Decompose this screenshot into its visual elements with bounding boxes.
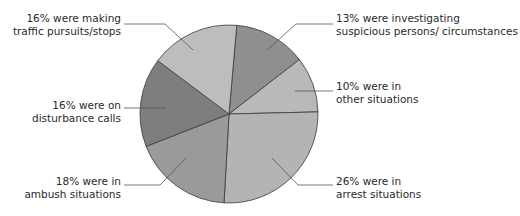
label-arrest-line2: arrest situations bbox=[336, 188, 421, 201]
label-other: 10% were in other situations bbox=[336, 80, 419, 105]
label-investigating-line1: 13% were investigating bbox=[336, 12, 518, 25]
label-investigating-line2: suspicious persons/ circumstances bbox=[336, 25, 518, 38]
label-traffic: 16% were making traffic pursuits/stops bbox=[10, 12, 121, 37]
label-ambush-line2: ambush situations bbox=[10, 188, 121, 201]
pie-slice bbox=[224, 112, 318, 203]
label-traffic-line2: traffic pursuits/stops bbox=[10, 25, 121, 38]
label-disturbance-line2: disturbance calls bbox=[10, 112, 121, 125]
pie-slices bbox=[140, 25, 318, 203]
label-arrest: 26% were in arrest situations bbox=[336, 175, 421, 200]
label-disturbance: 16% were on disturbance calls bbox=[10, 99, 121, 124]
label-investigating: 13% were investigating suspicious person… bbox=[336, 12, 518, 37]
label-other-line1: 10% were in bbox=[336, 80, 419, 93]
label-ambush: 18% were in ambush situations bbox=[10, 175, 121, 200]
label-other-line2: other situations bbox=[336, 93, 419, 106]
label-ambush-line1: 18% were in bbox=[10, 175, 121, 188]
label-traffic-line1: 16% were making bbox=[10, 12, 121, 25]
label-arrest-line1: 26% were in bbox=[336, 175, 421, 188]
label-disturbance-line1: 16% were on bbox=[10, 99, 121, 112]
